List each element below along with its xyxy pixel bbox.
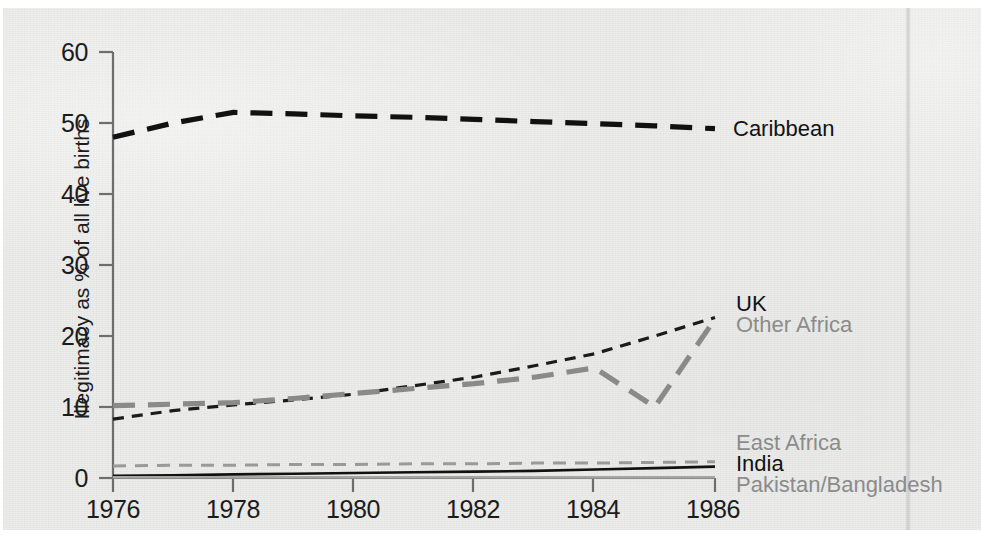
series-line-caribbean: [113, 112, 715, 137]
x-tick-label-1980: 1980: [308, 497, 398, 522]
series-label-caribbean: Caribbean: [733, 118, 835, 140]
x-tick-label-1978: 1978: [188, 497, 278, 522]
x-tick-label-1976: 1976: [68, 497, 158, 522]
series-label-pakistan-bangladesh: Pakistan/Bangladesh: [736, 474, 943, 496]
chart-series-layer: [113, 112, 715, 477]
line-chart-plot: [0, 0, 981, 547]
series-line-east-africa: [113, 462, 715, 466]
chart-page: 60 50 40 30 20 10 0 1976 1978 1980 1982 …: [0, 0, 981, 547]
x-tick-label-1986: 1986: [668, 497, 758, 522]
series-line-other-africa: [113, 319, 715, 407]
y-axis-title: Illegitimacy as % of all live births: [71, 59, 93, 479]
x-tick-label-1984: 1984: [548, 497, 638, 522]
series-label-other-africa: Other Africa: [736, 314, 852, 336]
series-line-india: [113, 467, 715, 476]
x-tick-label-1982: 1982: [428, 497, 518, 522]
